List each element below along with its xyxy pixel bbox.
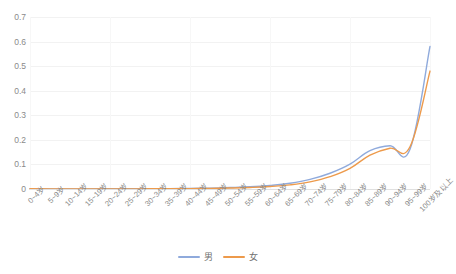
y-tick-label: 0.6 — [0, 38, 26, 47]
chart-legend: 男 女 — [0, 249, 436, 265]
y-tick-label: 0.7 — [0, 13, 26, 22]
legend-swatch-female — [223, 256, 245, 258]
legend-label-female: 女 — [249, 253, 258, 262]
y-tick-label: 0.3 — [0, 111, 26, 120]
series-line-女 — [30, 71, 430, 189]
y-tick-label: 0.4 — [0, 87, 26, 96]
legend-label-male: 男 — [204, 253, 213, 262]
legend-item-female[interactable]: 女 — [223, 253, 258, 262]
y-axis-labels: 00.10.20.30.40.50.60.7 — [0, 0, 26, 206]
series-lines — [30, 17, 430, 189]
gridline-vertical — [430, 17, 431, 189]
x-axis-labels: 0~4岁5~9岁10~14岁15~19岁20~24岁25~29岁30~34岁35… — [30, 190, 430, 250]
legend-swatch-male — [178, 256, 200, 258]
legend-item-male[interactable]: 男 — [178, 253, 213, 262]
plot-area — [30, 17, 430, 189]
y-tick-label: 0.1 — [0, 160, 26, 169]
y-tick-label: 0.5 — [0, 62, 26, 71]
series-line-男 — [30, 46, 430, 188]
y-tick-label: 0 — [0, 185, 26, 194]
x-tick-label: 0~4岁 — [25, 183, 48, 206]
y-tick-label: 0.2 — [0, 136, 26, 145]
